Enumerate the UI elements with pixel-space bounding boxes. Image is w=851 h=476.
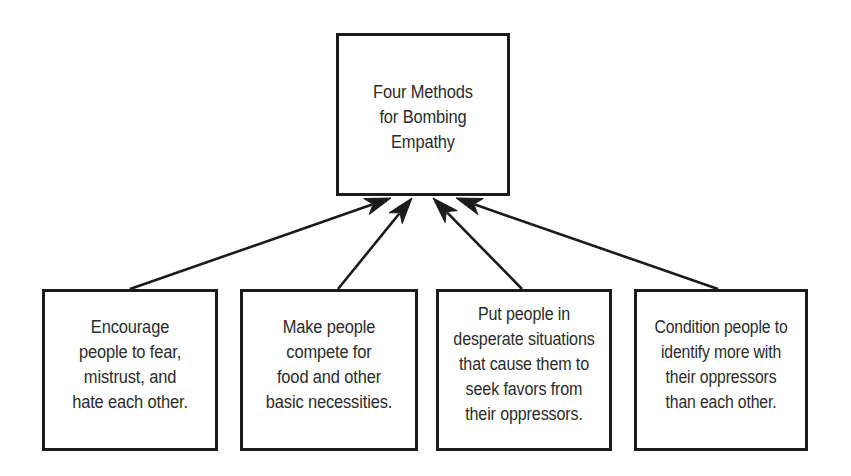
node-root-four-methods[interactable]: Four Methods for Bombing Empathy [336, 33, 510, 196]
node-leaf-make-people-compete[interactable]: Make people compete for food and other b… [240, 289, 418, 451]
arrow-1-shaft [338, 214, 399, 289]
arrow-2-head [433, 198, 457, 223]
arrow-0-shaft [130, 205, 372, 289]
arrow-3-shaft [475, 205, 718, 289]
node-leaf-2-label: Put people in desperate situations that … [446, 292, 602, 427]
arrow-0-head [364, 198, 391, 215]
node-leaf-3-label: Condition people to identify more with t… [645, 292, 796, 415]
arrow-2-shaft [447, 212, 522, 289]
node-leaf-encourage-fear[interactable]: Encourage people to fear, mistrust, and … [42, 289, 218, 451]
node-leaf-0-label: Encourage people to fear, mistrust, and … [50, 292, 210, 415]
node-root-label: Four Methods for Bombing Empathy [344, 36, 502, 155]
node-leaf-condition-people[interactable]: Condition people to identify more with t… [634, 289, 808, 451]
node-leaf-desperate-situations[interactable]: Put people in desperate situations that … [436, 289, 612, 451]
arrow-3-head [456, 198, 483, 215]
node-leaf-1-label: Make people compete for food and other b… [248, 292, 410, 415]
arrow-1-head [389, 198, 412, 224]
diagram-canvas: Four Methods for Bombing Empathy Encoura… [0, 0, 851, 476]
